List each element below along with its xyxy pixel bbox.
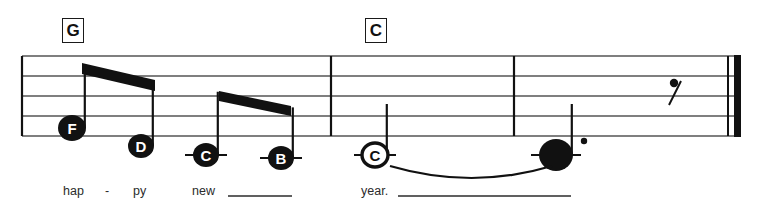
lyric-syllable: py — [133, 185, 146, 198]
notehead-note-b — [268, 146, 294, 170]
lyric-syllable: new — [192, 185, 215, 198]
lyric-syllable: hap — [63, 185, 84, 198]
beam-1 — [82, 63, 155, 91]
beams — [82, 63, 291, 116]
lyric-syllable: - — [105, 185, 109, 198]
notehead-note-f — [58, 115, 86, 141]
eighth-rest-icon — [669, 79, 681, 105]
sheet-music-score: GC FDCBC hap-pynewyear. — [0, 0, 780, 213]
chord-symbol-label: C — [370, 22, 382, 39]
slur-path — [390, 166, 552, 178]
chord-symbol-c: C — [365, 18, 387, 43]
notehead-note-d — [128, 134, 154, 158]
lyric-syllable: year. — [361, 185, 388, 198]
notation-canvas — [0, 0, 780, 213]
slur-curve — [390, 166, 552, 178]
staff-lines — [22, 56, 740, 136]
eighth-rest-dot — [670, 79, 678, 87]
notehead-note-final-dotted — [539, 139, 573, 171]
chord-symbol-g: G — [62, 18, 84, 43]
noteheads — [58, 115, 587, 171]
beam-2 — [219, 91, 291, 116]
note-stems — [85, 65, 572, 158]
chord-symbol-label: G — [66, 22, 79, 39]
notehead-note-c-hollow — [362, 143, 388, 167]
notehead-note-c-low-1 — [193, 143, 219, 167]
final-barline-thick — [734, 55, 741, 137]
augmentation-dot-note-final-dotted — [581, 138, 587, 144]
